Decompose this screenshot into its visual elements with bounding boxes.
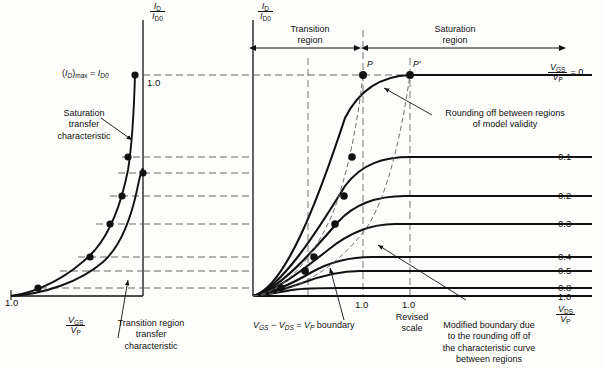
curve-label-0.2: 0.2 (558, 190, 571, 201)
right-x-tick-1: 1.0 (355, 299, 368, 310)
point-on-curve-0.4 (310, 253, 318, 261)
left-point (34, 284, 41, 291)
left-point (118, 192, 125, 199)
curve-label-0.3: 0.3 (558, 218, 571, 229)
left-annotation-leaders (101, 118, 132, 338)
figure-canvas (0, 0, 603, 368)
right-x-tick-2: 1.0 (402, 299, 415, 310)
transition-region-label: Transitionregion (265, 24, 355, 47)
left-curve-points (34, 71, 146, 291)
left-y-tick-1: 1.0 (147, 77, 160, 88)
left-y-axis-label: ID ID0 (150, 2, 165, 21)
point-on-curve-0.5 (301, 267, 309, 275)
point-P-prime (406, 71, 414, 79)
curve-label-0.1: 0.1 (558, 151, 571, 162)
point-on-curve-0.1 (348, 153, 356, 161)
curve-label-vgs-0: VGS VP = 0 (548, 63, 583, 82)
right-x-axis-label: VDS VP (556, 305, 575, 324)
point-on-curve-0.3 (331, 220, 339, 228)
boundary-label: VGS − VDS = VP boundary (253, 320, 354, 330)
modified-boundary-annotation: Modified boundary dueto the rounding off… (424, 320, 554, 365)
left-x-tick-1: 1.0 (5, 297, 18, 308)
rounding-annotation: Rounding off between regionsof model val… (420, 108, 590, 131)
right-y-axis-label: ID ID0 (258, 2, 273, 21)
left-x-axis-label: VGS VP (66, 316, 85, 335)
curve-label-1.0: 1.0 (558, 291, 571, 302)
left-transition-annotation: Transition regiontransfercharacteristic (96, 318, 206, 352)
point-on-curve-0.2 (340, 192, 348, 200)
point-P-prime-label: P' (413, 59, 420, 69)
left-level-dashes (40, 75, 253, 288)
curve-label-0.5: 0.5 (558, 265, 571, 276)
left-point (106, 220, 113, 227)
left-point-max (131, 71, 138, 78)
point-on-curve-0.8 (277, 284, 285, 292)
curve-vgs-0.2 (253, 196, 592, 296)
left-point (124, 153, 131, 160)
left-point (86, 253, 93, 260)
curve-vgs-0.8 (253, 288, 592, 296)
curve-vgs-0.4 (253, 257, 592, 296)
left-plot-axes (11, 20, 143, 300)
curve-label-0.4: 0.4 (558, 251, 571, 262)
saturation-region-label: Saturationregion (400, 24, 510, 47)
left-max-annotation: (ID)max = ID0 (62, 68, 109, 78)
left-point (139, 169, 146, 176)
curve-vgs-0.5 (253, 271, 592, 296)
point-P-label: P (367, 59, 373, 69)
left-saturation-annotation: Saturationtransfercharacteristic (36, 108, 132, 142)
point-P (359, 71, 367, 79)
